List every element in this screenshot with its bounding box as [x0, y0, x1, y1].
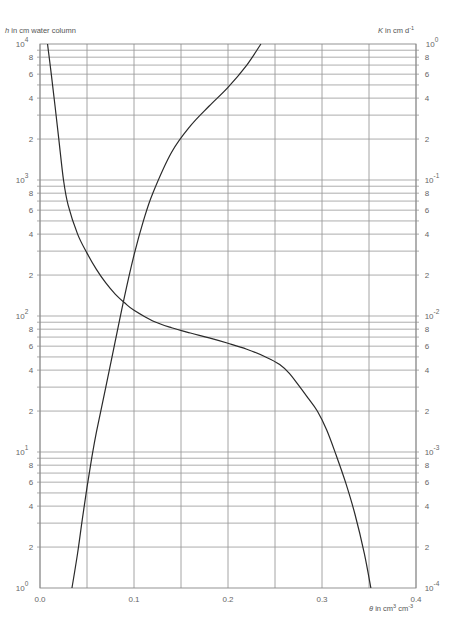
x-tick-label: 0.3 [316, 595, 328, 604]
left-minor-label: 6 [29, 206, 34, 215]
right-minor-label: 4 [425, 230, 430, 239]
left-axis-title: h in cm water column [5, 26, 76, 35]
retention-conductivity-chart: 1001011021031042468246824682468 10-410-3… [0, 0, 459, 632]
right-minor-label: 8 [425, 189, 430, 198]
left-axis-ticks: 1001011021031042468246824682468 [16, 36, 34, 593]
decade-label: 104 [16, 36, 29, 49]
decade-label: 103 [16, 172, 29, 185]
x-axis-title: θ in cm3 cm-3 [369, 603, 413, 613]
left-minor-label: 2 [29, 135, 34, 144]
x-tick-label: 0.2 [222, 595, 234, 604]
decade-label: 100 [16, 580, 29, 593]
left-minor-label: 2 [29, 407, 34, 416]
right-minor-label: 8 [425, 461, 430, 470]
x-tick-label: 0.1 [128, 595, 140, 604]
right-minor-label: 4 [425, 502, 430, 511]
left-minor-label: 6 [29, 342, 34, 351]
right-minor-label: 2 [425, 135, 430, 144]
right-minor-label: 4 [425, 94, 430, 103]
left-minor-label: 4 [29, 366, 34, 375]
right-minor-label: 6 [425, 70, 430, 79]
right-minor-label: 6 [425, 342, 430, 351]
left-minor-label: 2 [29, 543, 34, 552]
decade-label: 10-2 [425, 308, 440, 321]
left-minor-label: 8 [29, 189, 34, 198]
decade-label: 101 [16, 444, 29, 457]
left-minor-label: 2 [29, 271, 34, 280]
left-minor-label: 6 [29, 478, 34, 487]
x-tick-label: 0.0 [34, 595, 46, 604]
right-minor-label: 2 [425, 271, 430, 280]
left-minor-label: 4 [29, 502, 34, 511]
decade-label: 10-1 [425, 172, 440, 185]
right-minor-label: 2 [425, 407, 430, 416]
right-minor-label: 4 [425, 366, 430, 375]
left-minor-label: 4 [29, 230, 34, 239]
right-minor-label: 6 [425, 206, 430, 215]
left-minor-label: 8 [29, 461, 34, 470]
right-minor-label: 8 [425, 325, 430, 334]
left-minor-label: 8 [29, 325, 34, 334]
decade-label: 100 [426, 36, 439, 49]
right-minor-label: 8 [425, 53, 430, 62]
right-minor-label: 6 [425, 478, 430, 487]
right-axis-title: K in cm d-1 [378, 25, 414, 35]
decade-label: 10-4 [425, 580, 440, 593]
decade-label: 10-3 [425, 444, 440, 457]
left-minor-label: 6 [29, 70, 34, 79]
right-minor-label: 2 [425, 543, 430, 552]
left-minor-label: 8 [29, 53, 34, 62]
x-axis-ticks: 0.00.10.20.30.4 [34, 595, 422, 604]
left-minor-label: 4 [29, 94, 34, 103]
decade-label: 102 [16, 308, 29, 321]
right-axis-ticks: 10-410-310-210-11002468246824682468 [425, 36, 440, 593]
